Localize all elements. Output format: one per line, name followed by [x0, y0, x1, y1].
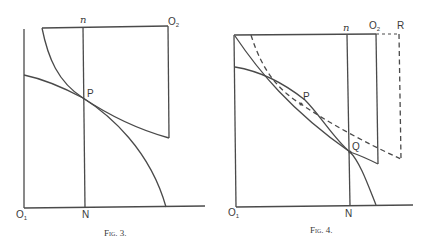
fig3-label-o2: O2	[168, 16, 180, 28]
fig4-top-edge	[234, 34, 376, 35]
fig3-curve-o1	[24, 75, 166, 207]
fig4-baseline	[236, 205, 413, 207]
fig4-dashed-right-edge	[399, 34, 401, 159]
fig4-label-o1: O1	[228, 207, 240, 219]
fig4-label-p: P	[303, 91, 310, 102]
fig3-label-n: n	[80, 14, 86, 25]
fig4-label-q: Q	[352, 141, 360, 152]
fig4-label-o2: O2	[369, 20, 381, 32]
fig3-baseline	[24, 206, 205, 208]
fig3-label-p: P	[87, 88, 94, 99]
fig3-label-o1: O1	[16, 209, 28, 221]
fig3-caption: Fig. 3.	[104, 228, 127, 238]
fig3-vertical-nN	[83, 27, 85, 208]
fig3-right-edge	[168, 26, 169, 138]
fig3-top-edge	[42, 26, 168, 28]
fig3-label-n-bottom: N	[82, 209, 89, 220]
diagram-canvas: n O2 P O1 N Fig. 3. n O2 R P	[0, 0, 427, 249]
fig4-point-p	[299, 102, 302, 105]
fig4-label-n-bottom: N	[345, 208, 352, 219]
figure-4: n O2 R P Q O1 N Fig. 4.	[228, 20, 413, 235]
figure-3: n O2 P O1 N Fig. 3.	[16, 14, 205, 238]
fig4-vertical-nN	[347, 35, 350, 206]
fig4-curve-o1	[235, 36, 376, 205]
fig4-dashed-curve	[251, 35, 401, 159]
fig4-label-r: R	[397, 20, 404, 31]
fig4-label-n: n	[343, 22, 349, 33]
fig4-left-axis	[234, 35, 236, 207]
fig3-curve-o2	[42, 28, 169, 138]
fig4-right-edge	[376, 34, 378, 164]
fig4-caption: Fig. 4.	[310, 225, 333, 235]
